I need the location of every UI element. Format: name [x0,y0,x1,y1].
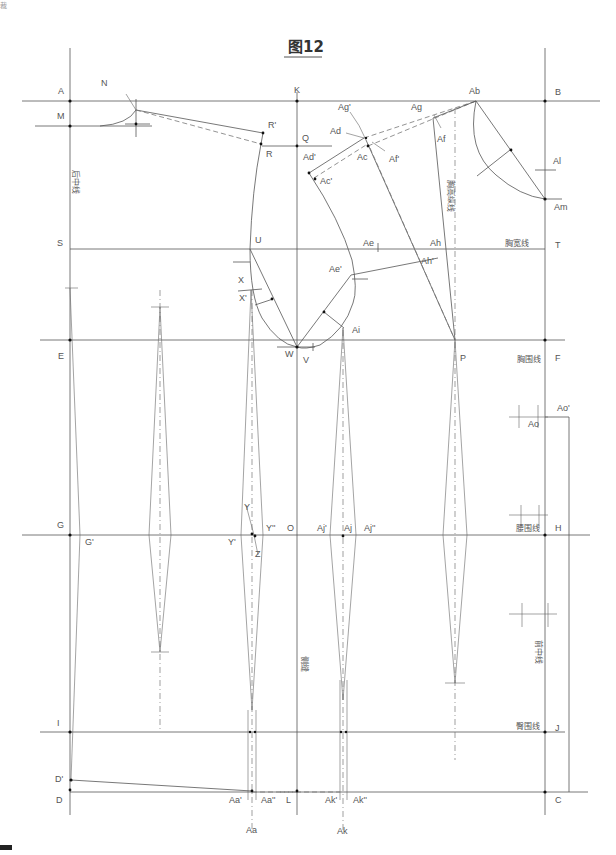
svg-text:Q: Q [302,133,309,143]
armhole-diagonal-UW [250,249,297,347]
side-seam-label: 侧缝 [300,656,310,672]
svg-text:U: U [255,235,262,245]
Ag'-arc [350,112,366,140]
svg-text:J: J [555,723,560,733]
svg-text:I: I [57,718,60,728]
svg-text:Ak': Ak' [325,795,338,805]
point-labels: A N K Ab B M R' Q R Ad' Ac' Ag' Ag Ad Ac… [55,78,570,836]
svg-text:Ai: Ai [352,325,360,335]
back-hem-D'Aa [71,780,252,791]
svg-text:Ad': Ad' [303,152,316,162]
svg-text:Ah': Ah' [421,256,434,266]
svg-text:K: K [294,85,300,95]
hem [71,780,340,792]
svg-text:Ac: Ac [357,152,368,162]
back-armhole-curve [250,144,297,347]
svg-text:Ag': Ag' [338,102,351,112]
hip-line-label: 臀围线 [516,721,540,731]
svg-text:R: R [266,149,273,159]
line-name-labels: 后中线 胸宽线 胸围线 腰围线 臀围线 前中线 侧缝 胸高纵线 [71,170,544,731]
svg-text:Y: Y [244,502,250,512]
svg-text:P: P [460,353,466,363]
svg-text:X': X' [239,293,247,303]
svg-text:H: H [555,523,562,533]
bust-vertical-label: 胸高纵线 [446,180,456,212]
svg-text:M: M [57,111,65,121]
N-leader [126,94,136,110]
svg-text:S: S [57,238,63,248]
svg-text:R': R' [268,120,276,130]
svg-text:Aj': Aj' [317,523,327,533]
svg-text:Aa: Aa [246,825,257,835]
back-shoulder-dash-NR [136,110,261,144]
front-armhole [297,173,438,348]
svg-text:G': G' [85,537,94,547]
dart-leg-AfP [433,118,455,340]
svg-text:W: W [285,349,294,359]
svg-text:G: G [57,520,64,530]
front-armhole-curve [297,173,355,348]
svg-text:X: X [238,275,244,285]
svg-text:F: F [555,353,561,363]
back-center-label: 后中线 [71,170,81,194]
svg-text:Al: Al [553,156,561,166]
darts [65,288,557,830]
front-neck [474,101,563,199]
svg-text:Ae: Ae [363,238,374,248]
svg-text:Ak: Ak [337,826,348,836]
svg-text:Ac': Ac' [320,176,333,186]
bust-line-label: 胸围线 [517,354,541,364]
svg-text:Ao': Ao' [557,403,570,413]
svg-text:Ab: Ab [469,86,480,96]
svg-text:Ah: Ah [430,238,441,248]
svg-text:B: B [555,87,561,97]
svg-text:Aj'': Aj'' [364,523,376,533]
svg-text:Ao: Ao [528,419,539,429]
svg-text:C: C [555,795,562,805]
svg-text:Aa'': Aa'' [261,795,276,805]
front-shoulder-AgAb [433,101,476,118]
svg-text:Af': Af' [389,154,400,164]
svg-text:Z: Z [255,549,261,559]
back-neck-shoulder [100,94,263,144]
svg-text:V: V [303,355,309,365]
svg-text:Aa': Aa' [229,795,242,805]
points [68,99,546,793]
vertical-guide-lines [70,48,569,815]
svg-text:Af: Af [437,134,446,144]
waist-line-label: 腰围线 [516,523,540,533]
svg-text:Ag: Ag [411,102,422,112]
svg-text:Ae': Ae' [329,264,342,274]
svg-text:A: A [58,86,64,96]
svg-text:D: D [56,795,63,805]
svg-text:N: N [101,78,108,88]
svg-text:T: T [555,240,561,250]
pattern-diagram: 图12 [0,0,616,855]
svg-text:O: O [287,523,294,533]
svg-text:Y'': Y'' [266,523,276,533]
svg-text:Aj: Aj [344,523,352,533]
svg-text:L: L [286,795,291,805]
svg-text:Y': Y' [228,537,236,547]
svg-text:D': D' [55,774,63,784]
svg-text:Ak'': Ak'' [353,795,367,805]
svg-text:E: E [58,351,64,361]
front-shoulder-Ad'Ad [309,138,364,173]
back-shoulder-NR' [136,110,263,133]
figure-title: 图12 [288,38,324,56]
front-center-label: 前中线 [534,640,544,664]
svg-text:Ad: Ad [330,126,341,136]
back-armhole [233,144,315,351]
chest-width-label: 胸宽线 [505,238,529,248]
page-marker [0,845,12,850]
horizontal-guide-lines [22,101,600,792]
svg-text:Am: Am [554,202,568,212]
